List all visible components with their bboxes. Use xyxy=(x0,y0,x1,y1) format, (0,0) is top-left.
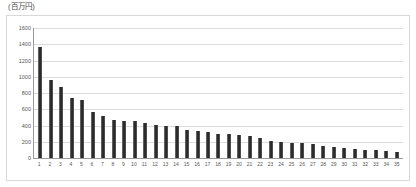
y-axis-tick-label: 1600 xyxy=(19,25,31,31)
x-axis-tick-label: 25 xyxy=(286,160,297,174)
plot-area xyxy=(33,28,403,159)
x-axis-tick-label: 26 xyxy=(297,160,308,174)
bar xyxy=(133,121,137,158)
bar xyxy=(300,143,304,158)
bar xyxy=(395,152,399,159)
x-axis-tick-label: 33 xyxy=(371,160,382,174)
bar-slot xyxy=(203,28,213,158)
x-axis-tick-label: 13 xyxy=(160,160,171,174)
bar-slot xyxy=(161,28,171,158)
chart-frame: 16001400120010008006004002000 1234567891… xyxy=(6,15,410,181)
y-axis-tick-label: 800 xyxy=(22,90,31,96)
bar xyxy=(363,150,367,158)
bar-slot xyxy=(182,28,192,158)
y-axis-tick-label: 600 xyxy=(22,106,31,112)
x-axis-tick-label: 34 xyxy=(381,160,392,174)
x-axis-tick-label: 27 xyxy=(307,160,318,174)
x-axis-tick-label: 18 xyxy=(213,160,224,174)
bar-slot xyxy=(192,28,202,158)
x-axis-tick-label: 1 xyxy=(34,160,45,174)
bar-slot xyxy=(171,28,181,158)
gridline xyxy=(34,158,403,159)
bar xyxy=(70,98,74,158)
bar xyxy=(38,47,42,158)
bar xyxy=(122,121,126,158)
bar xyxy=(112,120,116,158)
bar xyxy=(80,100,84,158)
bar-slot xyxy=(350,28,360,158)
bar xyxy=(384,151,388,158)
bar-slot xyxy=(245,28,255,158)
bar-slot xyxy=(45,28,55,158)
x-axis-tick-label: 23 xyxy=(265,160,276,174)
bar xyxy=(237,135,241,158)
bar-slot xyxy=(329,28,339,158)
bar xyxy=(311,144,315,158)
bar xyxy=(227,134,231,158)
plot-wrapper: 16001400120010008006004002000 1234567891… xyxy=(7,16,409,180)
x-axis-tick-label: 8 xyxy=(108,160,119,174)
bar-slot xyxy=(266,28,276,158)
x-axis-tick-label: 28 xyxy=(318,160,329,174)
bar xyxy=(216,134,220,158)
x-axis-tick-label: 11 xyxy=(139,160,150,174)
x-axis-tick-label: 12 xyxy=(150,160,161,174)
x-axis-tick-label: 19 xyxy=(223,160,234,174)
bar xyxy=(290,143,294,158)
x-axis-tick-label: 30 xyxy=(339,160,350,174)
bar-slot xyxy=(98,28,108,158)
x-axis-tick-label: 2 xyxy=(45,160,56,174)
bar xyxy=(206,132,210,158)
bar xyxy=(279,142,283,158)
bar xyxy=(164,126,168,159)
bar-slot xyxy=(234,28,244,158)
bar-slot xyxy=(140,28,150,158)
bar-slot xyxy=(287,28,297,158)
x-axis-tick-label: 29 xyxy=(328,160,339,174)
x-axis: 1234567891011121314151617181920212223242… xyxy=(33,160,403,174)
bar-slot xyxy=(129,28,139,158)
bar xyxy=(353,149,357,158)
bar-slot xyxy=(318,28,328,158)
bar xyxy=(258,138,262,158)
x-axis-tick-label: 9 xyxy=(118,160,129,174)
x-axis-tick-label: 6 xyxy=(87,160,98,174)
bar-slot xyxy=(371,28,381,158)
x-axis-tick-label: 15 xyxy=(181,160,192,174)
bar xyxy=(101,116,105,158)
bar-slot xyxy=(255,28,265,158)
bar-slot xyxy=(360,28,370,158)
bar xyxy=(321,146,325,158)
bar xyxy=(59,87,63,158)
bar xyxy=(342,148,346,158)
bar-slot xyxy=(381,28,391,158)
x-axis-tick-label: 17 xyxy=(202,160,213,174)
x-axis-tick-label: 22 xyxy=(255,160,266,174)
x-axis-tick-label: 31 xyxy=(349,160,360,174)
bar xyxy=(196,131,200,158)
y-axis-tick-label: 0 xyxy=(28,155,31,161)
y-axis-unit-caption: (百万円) xyxy=(8,2,35,12)
y-axis-tick-label: 200 xyxy=(22,139,31,145)
bar-slot xyxy=(87,28,97,158)
bar-slot xyxy=(276,28,286,158)
x-axis-tick-label: 7 xyxy=(97,160,108,174)
chart-figure: (百万円) 16001400120010008006004002000 1234… xyxy=(0,0,416,187)
x-axis-tick-label: 3 xyxy=(55,160,66,174)
y-axis-tick-label: 400 xyxy=(22,123,31,129)
x-axis-tick-label: 32 xyxy=(360,160,371,174)
x-axis-tick-label: 10 xyxy=(129,160,140,174)
bar-slot xyxy=(35,28,45,158)
x-axis-tick-label: 35 xyxy=(392,160,403,174)
x-axis-tick-label: 21 xyxy=(244,160,255,174)
x-axis-tick-label: 5 xyxy=(76,160,87,174)
bar-series xyxy=(34,28,403,158)
bar-slot xyxy=(56,28,66,158)
x-axis-tick-label: 14 xyxy=(171,160,182,174)
x-axis-tick-label: 20 xyxy=(234,160,245,174)
bar-slot xyxy=(150,28,160,158)
x-axis-tick-label: 24 xyxy=(276,160,287,174)
bar xyxy=(269,141,273,158)
bar-slot xyxy=(339,28,349,158)
bar-slot xyxy=(77,28,87,158)
